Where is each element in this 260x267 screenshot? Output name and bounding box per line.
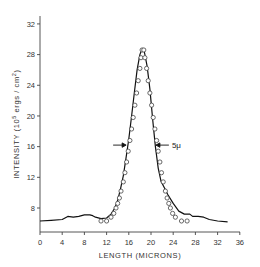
data-point-circle [145,66,149,70]
fwhm-label: 5μ [172,141,181,150]
y-tick-label: 16 [27,142,35,151]
y-axis-ticks: 8121620242832 [27,20,40,213]
data-point-circle [119,189,123,193]
data-point-circle [131,115,135,119]
x-tick-label: 16 [125,238,133,247]
left-pointing-arrow-icon [156,143,160,147]
data-point-circle [112,211,116,215]
data-point-circle [168,206,172,210]
x-tick-label: 8 [82,238,86,247]
data-point-circle [150,103,154,107]
data-point-circle [121,180,125,184]
x-tick-label: 4 [60,238,64,247]
data-point-circle [142,48,146,52]
y-tick-label: 20 [27,112,35,121]
data-point-circle [163,189,167,193]
data-point-circle [156,149,160,153]
data-point-circle [125,160,129,164]
data-point-circle [135,91,139,95]
data-point-circle [151,115,155,119]
x-tick-label: 12 [102,238,110,247]
fwhm-arrows [113,143,169,147]
data-point-circle [138,66,142,70]
x-tick-label: 0 [38,238,42,247]
data-point-circle [130,127,134,131]
intensity-profile-chart: 8121620242832 04812162024283236 5μ LENGT… [0,0,260,267]
y-tick-label: 24 [27,81,35,90]
data-point-circle [153,127,157,131]
y-axis-title: INTENSITY (105 ergs / cm2) [11,69,21,178]
data-point-circle [167,201,171,205]
measured-intensity-line [40,49,228,222]
computed-intensity-circles [99,48,189,223]
x-axis-title: LENGTH (MICRONS) [99,251,182,260]
x-axis-ticks: 04812162024283236 [38,232,244,247]
data-point-circle [148,91,152,95]
x-tick-label: 28 [191,238,199,247]
data-point-circle [116,201,120,205]
data-point-circle [117,196,121,200]
data-point-circle [114,206,118,210]
data-point-circle [136,79,140,83]
data-point-circle [185,219,189,223]
y-tick-label: 8 [31,204,35,213]
data-point-circle [158,160,162,164]
x-tick-label: 24 [169,238,177,247]
data-point-circle [173,215,177,219]
x-tick-label: 20 [147,238,155,247]
data-point-circle [126,149,130,153]
y-tick-label: 12 [27,173,35,182]
data-point-circle [179,219,183,223]
data-point-circle [128,138,132,142]
data-point-circle [99,219,103,223]
data-point-circle [161,180,165,184]
data-point-circle [171,211,175,215]
y-tick-label: 28 [27,50,35,59]
x-tick-label: 36 [236,238,244,247]
data-point-circle [155,138,159,142]
data-point-circle [109,215,113,219]
data-point-circle [146,79,150,83]
right-pointing-arrow-icon [122,143,126,147]
data-point-circle [165,196,169,200]
y-tick-label: 32 [27,20,35,29]
data-point-circle [159,171,163,175]
x-tick-label: 32 [213,238,221,247]
data-point-circle [105,219,109,223]
data-point-circle [143,56,147,60]
data-point-circle [133,103,137,107]
axes [40,16,240,232]
data-point-circle [123,171,127,175]
